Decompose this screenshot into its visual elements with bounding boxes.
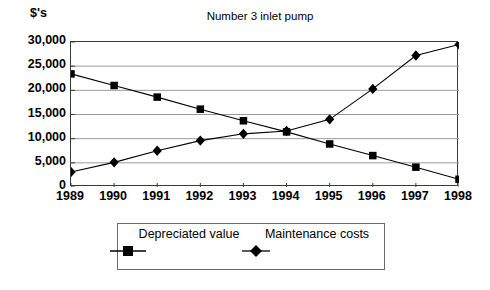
x-tick-label: 1998 (433, 190, 483, 203)
legend-label-maintenance-costs: Maintenance costs (256, 228, 378, 242)
y-tick-label: 20,000 (4, 82, 66, 95)
square-marker-icon (326, 140, 334, 148)
diamond-marker-icon (325, 114, 334, 124)
square-marker-icon (71, 70, 75, 78)
y-tick-label: 30,000 (4, 34, 66, 47)
chart-container: $'s Number 3 inlet pump 05,00010,00015,0… (0, 0, 490, 290)
legend-item-maintenance-costs: Maintenance costs (256, 228, 378, 268)
x-axis-tick-labels: 1989199019911992199319941995199619971998 (0, 190, 490, 210)
diamond-marker-icon (196, 135, 205, 145)
diamond-marker-icon (153, 146, 162, 156)
y-tick-label: 25,000 (4, 58, 66, 71)
diamond-marker-icon (411, 50, 420, 60)
square-marker-icon (240, 117, 248, 125)
legend-label-depreciated-value: Depreciated value (128, 228, 250, 242)
square-marker-icon (153, 93, 161, 101)
diamond-marker-icon (110, 157, 119, 167)
y-tick-label: 5,000 (4, 155, 66, 168)
legend-item-depreciated-value: Depreciated value (128, 228, 250, 268)
diamond-marker-icon (71, 167, 76, 177)
plot-area (70, 41, 458, 186)
y-tick-label: 15,000 (4, 107, 66, 120)
square-marker-icon (197, 105, 205, 113)
square-marker-icon (106, 242, 150, 260)
y-tick-label: 10,000 (4, 131, 66, 144)
square-marker-icon (412, 163, 420, 171)
square-marker-icon (455, 176, 459, 184)
series-line-maintenance-costs (71, 44, 459, 172)
series-line-depreciated-value (71, 74, 459, 179)
square-marker-icon (369, 152, 377, 160)
y-axis-tick-labels: 05,00010,00015,00020,00025,00030,000 (0, 0, 66, 290)
diamond-marker-icon (368, 84, 377, 94)
diamond-marker-icon (234, 242, 278, 260)
plot-svg (71, 42, 459, 187)
diamond-marker-icon (239, 129, 248, 139)
legend: Depreciated value Maintenance costs (117, 223, 385, 270)
square-marker-icon (110, 82, 118, 90)
chart-title: Number 3 inlet pump (160, 10, 360, 22)
